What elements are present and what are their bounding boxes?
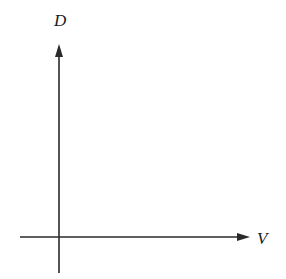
x-axis-arrow-icon bbox=[237, 233, 250, 241]
y-axis-arrow-icon bbox=[55, 44, 63, 57]
axes-diagram bbox=[0, 0, 286, 279]
x-axis-label: V bbox=[257, 230, 267, 247]
y-axis-label: D bbox=[54, 12, 66, 29]
